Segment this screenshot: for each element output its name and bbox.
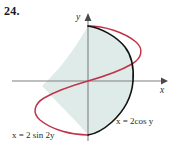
cos-curve-label: x = 2cos y	[116, 116, 154, 126]
sin-curve-label: x = 2 sin 2y	[12, 130, 55, 140]
x-axis-label: x	[159, 85, 165, 95]
figure-page: 24. y x x = 2cos y x = 2 sin 2y	[0, 0, 176, 145]
graph-figure: y x x = 2cos y x = 2 sin 2y	[0, 0, 176, 145]
x-axis-arrow	[161, 77, 168, 84]
y-axis-label: y	[75, 12, 81, 22]
y-axis-arrow	[85, 13, 92, 21]
